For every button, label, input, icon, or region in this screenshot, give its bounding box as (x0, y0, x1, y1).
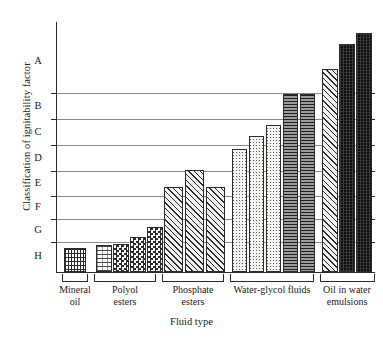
bars-layer (0, 0, 383, 273)
group-label-line1: Water-glycol fluids (224, 284, 320, 296)
group-label-line1: Polyol (92, 284, 158, 296)
group-label-line1: Phosphate (158, 284, 228, 296)
bar-polyol-esters-1 (96, 245, 112, 272)
bar-water-glycol-fluids-1 (232, 149, 247, 272)
group-label-line2: esters (158, 296, 228, 308)
bar-polyol-esters-3 (130, 237, 146, 272)
group-label-oil-in-water-emulsions: Oil in water emulsions (312, 284, 382, 308)
bar-polyol-esters-2 (113, 244, 129, 272)
bar-water-glycol-fluids-5 (300, 94, 315, 272)
bar-phosphate-esters-1 (164, 187, 183, 272)
bar-water-glycol-fluids-4 (283, 94, 298, 272)
group-label-line2: esters (92, 296, 158, 308)
bar-polyol-esters-4 (147, 227, 163, 272)
group-bracket-mineral-oil (62, 274, 88, 282)
group-label-phosphate-esters: Phosphate esters (158, 284, 228, 308)
bar-oil-in-water-emulsions-3 (356, 33, 372, 272)
ignitability-bar-chart: Classification of ignitability factor A … (0, 0, 383, 338)
bar-mineral-oil-1 (64, 248, 86, 272)
group-bracket-water-glycol-fluids (230, 274, 314, 282)
bar-water-glycol-fluids-2 (249, 136, 264, 272)
bar-oil-in-water-emulsions-1 (322, 69, 338, 272)
bar-phosphate-esters-3 (206, 187, 225, 272)
group-bracket-polyol-esters (94, 274, 156, 282)
bar-oil-in-water-emulsions-2 (339, 44, 355, 272)
group-bracket-phosphate-esters (162, 274, 224, 282)
x-axis-title: Fluid type (0, 316, 383, 327)
bar-phosphate-esters-2 (185, 170, 204, 272)
group-label-polyol-esters: Polyol esters (92, 284, 158, 308)
group-label-water-glycol-fluids: Water-glycol fluids (224, 284, 320, 296)
group-label-line1: Oil in water (312, 284, 382, 296)
group-label-line2: emulsions (312, 296, 382, 308)
bar-water-glycol-fluids-3 (266, 125, 281, 272)
group-bracket-oil-in-water-emulsions (320, 274, 375, 282)
